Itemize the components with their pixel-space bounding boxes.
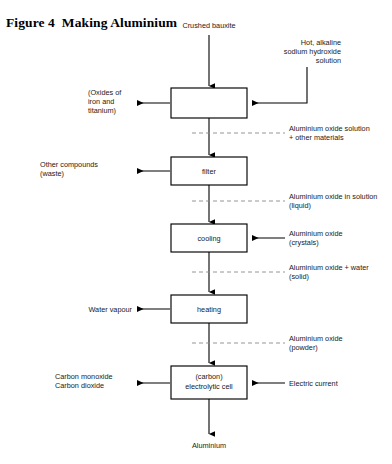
side-input-electric-current-label: Electric current	[289, 379, 338, 388]
side-output-oxides-line-2: iron and	[88, 97, 114, 106]
process-box-cell-label-line-2: electrolytic cell	[185, 382, 233, 391]
side-output-oxides-line-1: (Oxides of	[88, 88, 122, 97]
process-box-filter-label: filter	[202, 167, 216, 176]
side-input-sodium-hydroxide-line-2: sodium hydroxide	[284, 47, 341, 56]
side-input-crystals-line-2: (crystals)	[289, 238, 319, 247]
stream-label-1-line-2: + other materials	[289, 133, 344, 142]
stream-label-2-line-2: (liquid)	[289, 201, 311, 210]
side-output-waste-line-1: Other compounds	[40, 160, 98, 169]
side-output-carbon-oxides-line-1: Carbon monoxide	[55, 372, 113, 381]
stream-label-4-line-2: (powder)	[289, 343, 318, 352]
process-box-heating-label: heating	[197, 305, 221, 314]
flowchart-diagram: Crushed bauxite Hot, alkaline sodium hyd…	[0, 0, 392, 464]
side-input-sodium-hydroxide-line-1: Hot, alkaline	[301, 38, 341, 47]
stream-label-2-line-1: Aluminium oxide in solution	[289, 192, 377, 201]
side-input-crystals-line-1: Aluminium oxide	[289, 229, 343, 238]
process-box-cooling-label: cooling	[197, 234, 220, 243]
figure-container: Figure 4 Making Aluminium Crushed bauxit…	[0, 0, 392, 464]
side-output-waste-line-2: (waste)	[40, 169, 64, 178]
side-input-sodium-hydroxide-line-3: solution	[316, 56, 341, 65]
side-output-water-vapour-label: Water vapour	[88, 305, 132, 314]
side-output-oxides-line-3: titanium)	[88, 106, 116, 115]
process-box-cell-label-line-1: (carbon)	[195, 372, 222, 381]
stream-label-4-line-1: Aluminium oxide	[289, 334, 343, 343]
stream-label-1-line-1: Aluminium oxide solution	[289, 124, 370, 133]
process-box-digestion	[171, 88, 247, 118]
stream-label-3-line-1: Aluminium oxide + water	[289, 263, 369, 272]
arrow-sodium-hydroxide-to-digestion	[252, 67, 307, 103]
stream-label-3-line-2: (solid)	[289, 272, 309, 281]
side-output-carbon-oxides-line-2: Carbon dioxide	[55, 381, 104, 390]
input-label-crushed-bauxite: Crushed bauxite	[182, 21, 235, 30]
output-label-aluminium: Aluminium	[192, 441, 226, 450]
